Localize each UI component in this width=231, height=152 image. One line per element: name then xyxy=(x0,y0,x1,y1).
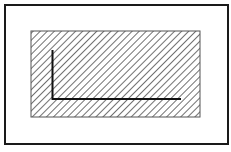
hatched-region xyxy=(31,31,200,117)
diagram-canvas xyxy=(0,0,231,152)
